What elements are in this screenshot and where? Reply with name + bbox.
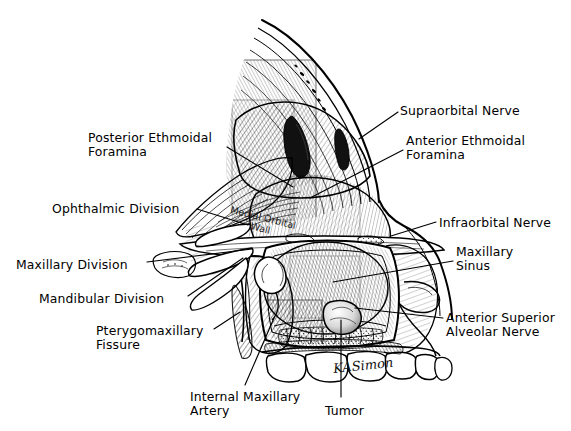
label-line: Fissure (96, 338, 204, 352)
label-line: Pterygomaxillary (96, 324, 204, 338)
label-line: Artery (190, 404, 300, 418)
label-anterior-superior-alveolar-nerve: Anterior SuperiorAlveolar Nerve (446, 311, 555, 338)
label-line: Internal Maxillary (190, 390, 300, 404)
label-line: Anterior Ethmoidal (406, 134, 525, 148)
label-supraorbital-nerve: Supraorbital Nerve (400, 104, 520, 118)
label-maxillary-division: Maxillary Division (16, 258, 128, 272)
label-line: Foramina (88, 145, 212, 159)
label-line: Alveolar Nerve (446, 325, 555, 339)
leader-line-infraorbital-nerve (391, 222, 436, 236)
label-line: Supraorbital Nerve (400, 104, 520, 118)
label-maxillary-sinus: MaxillarySinus (456, 245, 513, 272)
label-infraorbital-nerve: Infraorbital Nerve (439, 216, 551, 230)
label-tumor: Tumor (325, 404, 364, 418)
label-anterior-ethmoidal-foramina: Anterior EthmoidalForamina (406, 134, 525, 161)
anatomical-figure: Posterior EthmoidalForaminaOphthalmic Di… (0, 0, 571, 431)
tumor-mass (323, 300, 361, 334)
label-line: Posterior Ethmoidal (88, 131, 212, 145)
label-internal-maxillary-artery: Internal MaxillaryArtery (190, 390, 300, 417)
label-line: Tumor (325, 404, 364, 418)
label-line: Foramina (406, 148, 525, 162)
label-mandibular-division: Mandibular Division (39, 292, 164, 306)
label-line: Mandibular Division (39, 292, 164, 306)
label-posterior-ethmoidal-foramina: Posterior EthmoidalForamina (88, 131, 212, 158)
label-line: Anterior Superior (446, 311, 555, 325)
leader-line-supraorbital-nerve (359, 112, 398, 139)
label-line: Maxillary (456, 245, 513, 259)
label-line: Infraorbital Nerve (439, 216, 551, 230)
label-pterygomaxillary-fissure: PterygomaxillaryFissure (96, 324, 204, 351)
label-ophthalmic-division: Ophthalmic Division (52, 202, 179, 216)
label-line: Ophthalmic Division (52, 202, 179, 216)
label-line: Maxillary Division (16, 258, 128, 272)
label-line: Sinus (456, 259, 513, 273)
